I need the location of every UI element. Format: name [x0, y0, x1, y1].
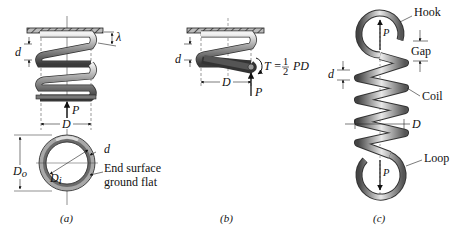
spring-coils-b — [199, 34, 253, 70]
label-loop: Loop — [424, 151, 449, 165]
svg-text:PD: PD — [292, 59, 309, 73]
bottom-plate — [36, 95, 96, 99]
label-D-c: D — [411, 117, 421, 131]
extension-coils — [358, 56, 405, 155]
label-gap: Gap — [411, 44, 431, 58]
label-torque: T = — [264, 59, 282, 73]
wire-section — [248, 64, 254, 70]
label-d-b: d — [175, 52, 182, 66]
panel-a-compression-spring: d λ P D Do Di d End surf — [12, 16, 161, 225]
caption-a: (a) — [60, 212, 73, 225]
torque-arrow — [256, 58, 262, 74]
svg-text:P: P — [382, 167, 390, 178]
note-end-surface-line2: ground flat — [104, 175, 158, 189]
label-lambda: λ — [115, 30, 121, 44]
caption-b: (b) — [220, 212, 233, 225]
spring-coils — [39, 34, 94, 98]
label-coil: Coil — [422, 89, 443, 103]
panel-c-extension-spring: P P Hook Gap d Coil D L — [328, 5, 449, 225]
svg-text:2: 2 — [283, 66, 288, 77]
label-D: D — [61, 117, 71, 131]
label-d-end: d — [104, 142, 111, 156]
label-P: P — [71, 103, 80, 117]
note-end-surface-line1: End surface — [104, 161, 161, 175]
label-D-b: D — [221, 75, 231, 89]
svg-text:P: P — [382, 27, 390, 38]
label-d: d — [15, 45, 22, 59]
helical-spring-diagram: d λ P D Do Di d End surf — [0, 0, 452, 236]
caption-c: (c) — [373, 212, 386, 225]
label-P-b: P — [254, 85, 263, 99]
label-d-c: d — [328, 67, 335, 81]
label-hook: Hook — [414, 5, 441, 19]
panel-b-spring-torsion: T = 1 2 PD d D P (b) — [175, 18, 309, 225]
